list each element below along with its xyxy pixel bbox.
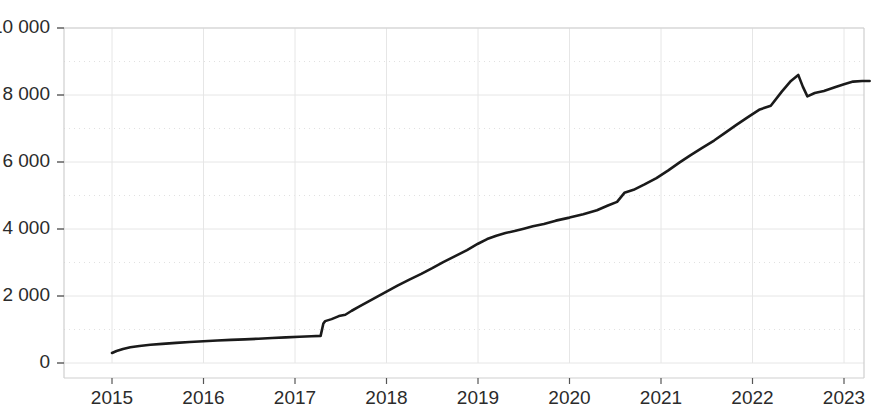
x-axis-tick-label: 2015 bbox=[91, 387, 133, 408]
y-axis-tick-label: 10 000 bbox=[0, 16, 50, 37]
x-axis-tick-labels: 201520162017201820192020202120222023 bbox=[91, 387, 865, 408]
chart-background bbox=[0, 0, 873, 411]
x-axis-tick-label: 2016 bbox=[182, 387, 224, 408]
x-axis-tick-label: 2023 bbox=[823, 387, 865, 408]
y-axis-tick-label: 2 000 bbox=[2, 284, 50, 305]
y-axis-tick-label: 0 bbox=[39, 351, 50, 372]
line-chart: 02 0004 0006 0008 00010 000 201520162017… bbox=[0, 0, 873, 411]
y-axis-tick-label: 6 000 bbox=[2, 150, 50, 171]
x-axis-tick-label: 2019 bbox=[457, 387, 499, 408]
x-axis-tick-label: 2020 bbox=[548, 387, 590, 408]
chart-container: 02 0004 0006 0008 00010 000 201520162017… bbox=[0, 0, 873, 411]
x-axis-tick-label: 2022 bbox=[731, 387, 773, 408]
x-axis-tick-label: 2021 bbox=[640, 387, 682, 408]
x-axis-tick-label: 2018 bbox=[365, 387, 407, 408]
y-axis-tick-label: 4 000 bbox=[2, 217, 50, 238]
x-axis-tick-label: 2017 bbox=[274, 387, 316, 408]
y-axis-tick-label: 8 000 bbox=[2, 83, 50, 104]
